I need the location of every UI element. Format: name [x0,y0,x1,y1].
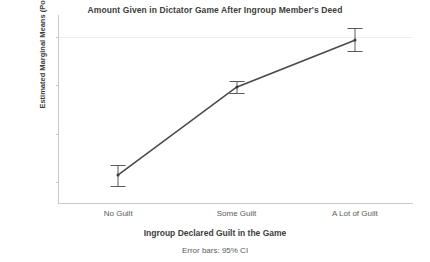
error-bar-footnote: Error bars: 95% CI [0,246,430,255]
series-line [59,15,414,204]
error-bar-cap-top [347,28,362,29]
error-bar-stem [236,81,237,93]
chart-title: Amount Given in Dictator Game After Ingr… [0,5,430,15]
data-point-marker [353,39,356,42]
x-tick-label: Some Guilt [182,209,292,218]
error-bar-cap-bottom [347,51,362,52]
error-bar-cap-bottom [229,93,244,94]
error-bar-stem [118,165,119,187]
data-series-layer [59,15,413,203]
y-tick-mark [56,134,59,135]
error-bar-cap-top [111,165,126,166]
chart-canvas: Amount Given in Dictator Game After Ingr… [0,0,430,262]
data-point-marker [117,173,120,176]
error-bar-cap-bottom [111,186,126,187]
y-tick-mark [56,37,59,38]
y-tick-mark [56,182,59,183]
y-axis-title: Estimated Marginal Means (Points) [38,0,47,127]
x-axis-title: Ingroup Declared Guilt in the Game [0,228,430,238]
x-tick-label: No Guilt [63,209,173,218]
data-point-marker [235,86,238,89]
x-tick-label: A Lot of Guilt [300,209,410,218]
plot-area: .04.03.02.01 No GuiltSome GuiltA Lot of … [58,15,413,204]
gridline [59,37,413,38]
error-bar-cap-top [229,81,244,82]
y-tick-mark [56,85,59,86]
error-bar-stem [354,28,355,52]
